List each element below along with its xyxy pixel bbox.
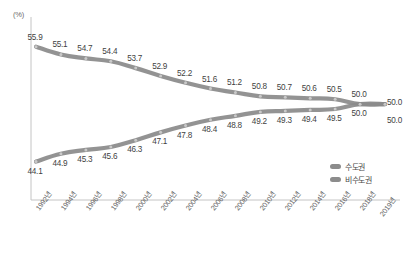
data-value-label: 50.0 <box>352 90 367 99</box>
data-point-marker <box>84 57 87 60</box>
data-point-marker <box>134 67 137 70</box>
data-point-marker <box>309 97 312 100</box>
data-value-label: 49.5 <box>327 114 342 123</box>
data-point-marker <box>84 148 87 151</box>
data-point-marker <box>134 139 137 142</box>
data-value-label: 55.1 <box>52 40 67 49</box>
data-value-label: 48.8 <box>227 121 242 130</box>
data-point-marker <box>234 114 237 117</box>
data-point-marker <box>259 110 262 113</box>
data-value-label: 44.9 <box>52 159 67 168</box>
data-point-marker <box>184 81 187 84</box>
data-point-marker <box>209 118 212 121</box>
data-point-marker <box>159 74 162 77</box>
data-value-label: 51.6 <box>202 75 217 84</box>
legend-label-sudogwon: 수도권 <box>345 161 365 172</box>
data-value-label: 47.1 <box>152 137 167 146</box>
chart-container: (%) 55.955.154.754.453.752.952.251.651.2… <box>0 0 410 254</box>
data-point-marker <box>184 124 187 127</box>
legend-item-bisudogwon[interactable]: 비수도권 <box>330 173 408 186</box>
data-value-label: 52.2 <box>177 69 192 78</box>
data-value-label: 46.3 <box>127 145 142 154</box>
data-point-marker <box>159 131 162 134</box>
data-value-label: 54.4 <box>102 47 117 56</box>
data-value-label: 50.5 <box>327 85 342 94</box>
data-value-label: 45.6 <box>102 152 117 161</box>
legend-swatch-bisudogwon <box>330 177 341 182</box>
data-value-label: 50.8 <box>252 82 267 91</box>
data-point-marker <box>109 145 112 148</box>
legend-label-bisudogwon: 비수도권 <box>345 174 372 185</box>
data-value-label: 49.2 <box>252 117 267 126</box>
data-value-label: 53.7 <box>127 54 142 63</box>
data-point-marker <box>309 108 312 111</box>
legend-swatch-sudogwon <box>330 164 341 169</box>
legend-item-sudogwon[interactable]: 수도권 <box>330 160 408 173</box>
endpoint-value-label: 50.0 <box>387 116 402 125</box>
data-point-marker <box>59 53 62 56</box>
endpoint-value-label: 50.0 <box>387 98 402 107</box>
data-value-label: 50.7 <box>277 83 292 92</box>
data-point-marker <box>284 96 287 99</box>
data-value-label: 54.7 <box>77 44 92 53</box>
data-point-marker <box>35 160 38 163</box>
data-value-label: 50.0 <box>352 109 367 118</box>
data-value-label: 49.4 <box>302 115 317 124</box>
data-point-marker <box>284 109 287 112</box>
data-point-marker <box>359 103 362 106</box>
data-point-marker <box>209 87 212 90</box>
data-value-label: 45.3 <box>77 155 92 164</box>
data-value-label: 52.9 <box>152 62 167 71</box>
data-point-marker <box>234 91 237 94</box>
data-point-marker <box>334 108 337 111</box>
data-value-label: 44.1 <box>28 167 43 176</box>
data-point-marker <box>334 98 337 101</box>
data-value-label: 55.9 <box>28 33 43 42</box>
series-group <box>35 45 387 163</box>
data-point-marker <box>35 45 38 48</box>
data-point-marker <box>259 95 262 98</box>
data-point-marker <box>109 60 112 63</box>
data-value-label: 51.2 <box>227 78 242 87</box>
chart-legend: 수도권 비수도권 <box>330 160 408 186</box>
data-value-label: 50.6 <box>302 84 317 93</box>
data-point-marker <box>59 152 62 155</box>
data-value-label: 48.4 <box>202 125 217 134</box>
data-value-label: 49.3 <box>277 116 292 125</box>
data-value-label: 47.8 <box>177 131 192 140</box>
